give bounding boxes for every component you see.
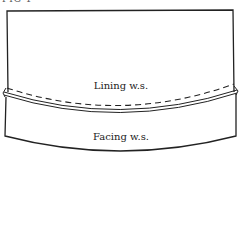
lining-label: Lining w.s. bbox=[94, 80, 148, 91]
seam-line-outer bbox=[4, 90, 237, 110]
facing-label: Facing w.s. bbox=[93, 131, 149, 142]
